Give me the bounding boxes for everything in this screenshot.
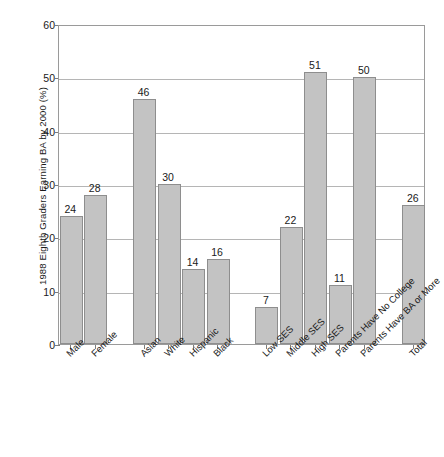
bar-value-label: 28 xyxy=(89,182,101,194)
bar-value-label: 51 xyxy=(309,59,321,71)
y-tick-label: 50 xyxy=(29,72,55,84)
y-tick-label: 0 xyxy=(29,339,55,351)
bar-value-label: 11 xyxy=(334,272,345,284)
bar-value-label: 30 xyxy=(162,171,174,183)
y-tick-label: 30 xyxy=(29,179,55,191)
bar-value-label: 26 xyxy=(407,192,419,204)
y-tick-label: 10 xyxy=(29,286,55,298)
bar[interactable] xyxy=(158,184,181,344)
bar-chart: 1988 Eighth Graders Earning BA by 2000 (… xyxy=(0,0,444,457)
bar[interactable] xyxy=(353,77,376,344)
bar-value-label: 16 xyxy=(211,246,223,258)
bar[interactable] xyxy=(133,99,156,344)
bar[interactable] xyxy=(182,269,205,344)
bar-value-label: 50 xyxy=(358,64,370,76)
bar[interactable] xyxy=(84,195,107,344)
y-tick-label: 60 xyxy=(29,19,55,31)
y-tick-label: 20 xyxy=(29,232,55,244)
bar-value-label: 7 xyxy=(263,294,269,306)
bar-value-label: 22 xyxy=(285,214,297,226)
bar[interactable] xyxy=(304,72,327,344)
bar-value-label: 24 xyxy=(64,203,76,215)
bar-value-label: 46 xyxy=(138,86,150,98)
bar[interactable] xyxy=(402,205,425,344)
bar-value-label: 14 xyxy=(187,256,199,268)
y-tick-label: 40 xyxy=(29,126,55,138)
y-tick-mark xyxy=(55,345,60,346)
bar[interactable] xyxy=(60,216,83,344)
